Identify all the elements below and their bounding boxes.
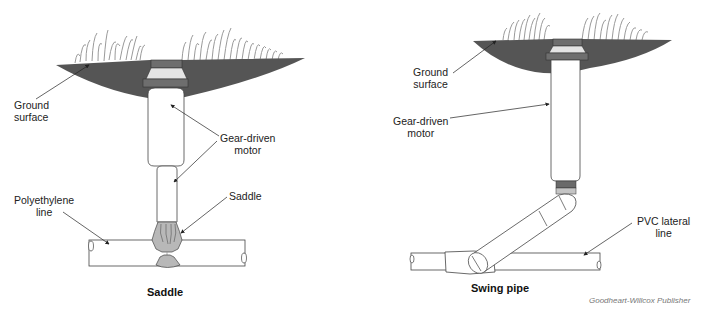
label-line: Ground (413, 66, 448, 78)
caption-saddle: Saddle (147, 286, 183, 298)
collar-taper (549, 46, 586, 53)
collar-taper (146, 68, 187, 79)
label-ground-surface-right: Ground surface (413, 66, 448, 90)
collar-flange (546, 53, 588, 60)
riser-tube (157, 166, 177, 222)
collar-top (553, 39, 582, 46)
label-polyethylene-line: Polyethylene line (14, 194, 74, 218)
irrigation-diagram-canvas (0, 0, 705, 313)
motor-body (551, 60, 580, 181)
label-line: motor (393, 127, 448, 139)
label-line: line (14, 206, 74, 218)
label-saddle: Saddle (229, 190, 262, 202)
collar-flange (143, 79, 188, 87)
label-ground-surface-left: Ground surface (14, 99, 49, 123)
right-diagram (410, 13, 672, 277)
publisher-credit: Goodheart-Willcox Publisher (589, 296, 690, 305)
caption-swing-pipe: Swing pipe (471, 282, 529, 294)
label-gear-driven-motor-right: Gear-driven motor (393, 115, 448, 139)
motor-body (148, 88, 184, 166)
label-line: Polyethylene (14, 194, 74, 206)
ring-light (556, 188, 576, 194)
label-line: Gear-driven (393, 115, 448, 127)
label-line: line (637, 227, 690, 239)
label-line: surface (14, 111, 49, 123)
ring-dark (556, 181, 576, 188)
label-line: Ground (14, 99, 49, 111)
saddle-clamp-upper (152, 222, 182, 252)
grass-icon (75, 28, 283, 63)
grass-icon (503, 13, 648, 40)
label-line: PVC lateral (637, 215, 690, 227)
label-gear-driven-motor-left: Gear-driven motor (220, 132, 275, 156)
label-line: Gear-driven (220, 132, 275, 144)
label-pvc-lateral-line: PVC lateral line (637, 215, 690, 239)
label-line: motor (220, 144, 275, 156)
label-line: surface (413, 78, 448, 90)
collar-top (151, 60, 182, 68)
